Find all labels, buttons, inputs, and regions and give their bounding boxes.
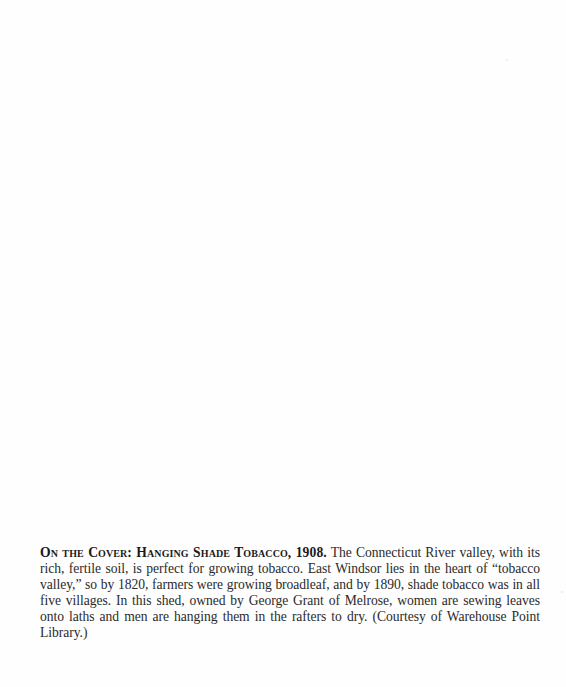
book-page: On the Cover: Hanging Shade Tobacco, 190…: [0, 0, 566, 687]
cover-caption: On the Cover: Hanging Shade Tobacco, 190…: [40, 545, 540, 641]
caption-title: On the Cover: Hanging Shade Tobacco, 190…: [40, 545, 327, 560]
scan-artifact: [561, 591, 563, 593]
scan-artifact: [506, 59, 508, 61]
